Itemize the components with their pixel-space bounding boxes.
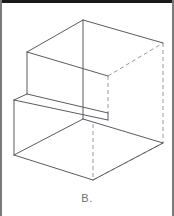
top-right-ridge-edge [83, 20, 163, 43]
isometric-block-drawing [0, 0, 174, 216]
figure-panel: B. [0, 0, 174, 216]
upper-inner-diagonal-edge [27, 52, 108, 76]
step-tread-top-edge [27, 94, 108, 113]
step-nose-left-edge [14, 94, 27, 100]
lower-right-top-edge [83, 119, 163, 143]
lower-inner-diagonal-edge [14, 119, 83, 155]
hidden-upper-right-diagonal-edge [108, 43, 163, 76]
lower-front-right-edge [93, 143, 163, 180]
lower-front-left-edge [14, 155, 93, 180]
figure-caption: B. [0, 192, 174, 204]
top-left-ridge-edge [27, 20, 83, 52]
